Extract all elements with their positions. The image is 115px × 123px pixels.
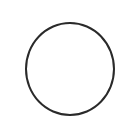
radio-button-unchecked[interactable]: circle-outline-icon [25, 22, 115, 116]
circle-outline-icon: circle-outline-icon [27, 24, 28, 25]
